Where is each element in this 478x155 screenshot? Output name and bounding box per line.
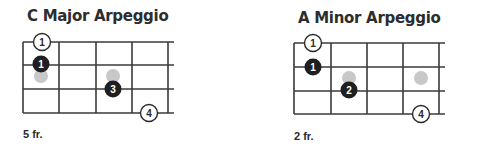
svg-text:2: 2 <box>346 85 352 96</box>
chord-diagram-a-minor: A Minor Arpeggio 1 1 2 4 <box>0 0 478 155</box>
fret-position-label: 2 fr. <box>294 130 314 142</box>
ghost-dot <box>414 71 428 85</box>
fretboard-grid: 1 1 2 4 <box>0 0 478 155</box>
filled-finger-marker-1: 1 <box>305 59 322 76</box>
open-finger-marker-4: 4 <box>413 106 430 123</box>
svg-text:1: 1 <box>310 38 316 49</box>
open-finger-marker-1: 1 <box>305 35 322 52</box>
filled-finger-marker-2: 2 <box>341 82 358 99</box>
svg-text:1: 1 <box>310 62 316 73</box>
svg-text:4: 4 <box>418 109 424 120</box>
